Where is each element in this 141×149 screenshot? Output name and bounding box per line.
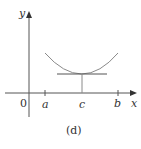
x-axis-label: x <box>131 97 138 110</box>
figure-d: y x 0 a c b (d) <box>0 0 141 149</box>
y-axis-label: y <box>18 7 26 20</box>
origin-label: 0 <box>20 97 27 110</box>
tick-label-c: c <box>79 98 85 111</box>
x-axis-arrow-icon <box>130 90 137 96</box>
y-axis-arrow-icon <box>26 11 32 18</box>
caption: (d) <box>66 124 82 137</box>
tick-label-b: b <box>114 97 121 110</box>
tick-label-a: a <box>42 98 49 111</box>
curve <box>45 53 118 74</box>
